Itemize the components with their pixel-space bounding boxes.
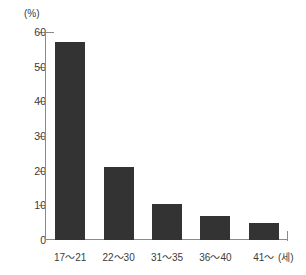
x-axis-tick-labels: 17～2122～3031～3536～4041～ [46, 249, 288, 265]
bar-chart: (%) 0102030405060 17～2122～3031～3536～4041… [0, 0, 306, 275]
x-axis-tick-label: 17～21 [54, 249, 86, 264]
bar [152, 204, 182, 240]
y-axis-tick-label: 60 [12, 26, 46, 38]
x-axis-tick-label: 41～ [253, 249, 274, 264]
x-axis-unit-label: (세) [278, 249, 294, 264]
bar-slot [143, 32, 191, 240]
y-axis-unit-label: (%) [24, 8, 40, 19]
bar [200, 216, 230, 240]
bar-slot [46, 32, 94, 240]
bar [104, 167, 134, 240]
y-axis-tick-label: 40 [12, 95, 46, 107]
y-axis-tick-label: 0 [12, 234, 46, 246]
bar-slot [240, 32, 288, 240]
bar-slot [94, 32, 142, 240]
y-axis-tick-label: 30 [12, 130, 46, 142]
y-axis-tick-label: 20 [12, 165, 46, 177]
bar [55, 42, 85, 240]
x-axis-tick-label: 22～30 [102, 249, 134, 264]
y-axis-tick-label: 50 [12, 61, 46, 73]
bar-slot [191, 32, 239, 240]
x-axis-tick-label: 31～35 [151, 249, 183, 264]
x-axis-tick-label: 36～40 [199, 249, 231, 264]
y-axis-tick-label: 10 [12, 199, 46, 211]
bar-series [46, 32, 288, 240]
bar [249, 223, 279, 240]
